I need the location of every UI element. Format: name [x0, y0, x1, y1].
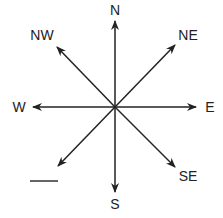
arrow-northeast — [115, 45, 175, 107]
label-northwest: NW — [30, 27, 54, 43]
arrow-northwest — [57, 47, 115, 107]
compass-rose-diagram: N NE E SE S W NW — [0, 0, 223, 218]
arrow-southwest — [58, 107, 115, 166]
label-northeast: NE — [178, 27, 197, 43]
label-west: W — [12, 99, 26, 115]
label-south: S — [110, 196, 119, 212]
arrow-southeast — [115, 107, 175, 167]
label-east: E — [205, 99, 214, 115]
label-north: N — [110, 2, 120, 18]
label-southeast: SE — [179, 168, 198, 184]
